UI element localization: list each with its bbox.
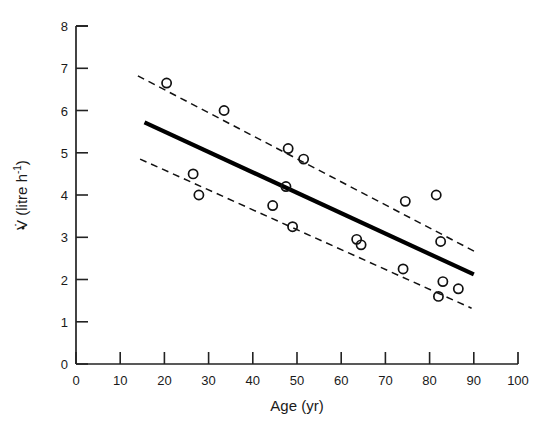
upper-confidence-limit-line (138, 76, 478, 253)
data-point (189, 169, 198, 178)
x-axis-tick-labels: 0 10 20 30 40 50 60 70 80 90 100 (72, 373, 528, 388)
chart-svg: 0 1 2 3 4 5 6 7 8 0 10 20 (0, 0, 549, 423)
x-tick-label-10: 10 (113, 373, 127, 388)
scatter-plot-figure: 0 1 2 3 4 5 6 7 8 0 10 20 (0, 0, 549, 423)
y-axis-title-main: V̇ (litre h (13, 174, 30, 230)
data-point (432, 190, 441, 199)
x-tick-label-40: 40 (246, 373, 260, 388)
y-tick-label-4: 4 (61, 188, 68, 203)
y-axis-tick-labels: 0 1 2 3 4 5 6 7 8 (61, 19, 68, 372)
v-dot-overdot-icon (22, 227, 25, 230)
y-tick-label-2: 2 (61, 273, 68, 288)
x-axis-title: Age (yr) (270, 397, 323, 414)
data-point (288, 222, 297, 231)
data-point (268, 201, 277, 210)
x-axis-ticks (76, 352, 474, 364)
data-point (438, 277, 447, 286)
data-point (401, 197, 410, 206)
x-tick-label-20: 20 (157, 373, 171, 388)
data-point (454, 284, 463, 293)
data-point (162, 78, 171, 87)
data-point (398, 264, 407, 273)
y-axis-title: V̇ (litre h-1) (12, 160, 30, 230)
x-tick-label-50: 50 (290, 373, 304, 388)
regression-line (145, 122, 474, 274)
y-tick-label-8: 8 (61, 19, 68, 34)
x-tick-label-30: 30 (201, 373, 215, 388)
data-point (194, 190, 203, 199)
data-point (284, 144, 293, 153)
y-tick-label-1: 1 (61, 315, 68, 330)
x-tick-label-60: 60 (334, 373, 348, 388)
lower-confidence-limit-line (140, 159, 472, 308)
y-tick-label-0: 0 (61, 357, 68, 372)
y-tick-label-6: 6 (61, 104, 68, 119)
y-axis-title-close: ) (13, 160, 30, 165)
x-tick-label-100: 100 (507, 373, 529, 388)
data-point (436, 237, 445, 246)
x-tick-label-80: 80 (422, 373, 436, 388)
data-point (219, 106, 228, 115)
y-tick-label-7: 7 (61, 61, 68, 76)
y-tick-label-5: 5 (61, 146, 68, 161)
y-axis-title-group: V̇ (litre h-1) (12, 160, 30, 230)
x-tick-label-70: 70 (378, 373, 392, 388)
x-tick-label-90: 90 (467, 373, 481, 388)
y-axis-ticks (76, 26, 88, 364)
x-tick-label-0: 0 (72, 373, 79, 388)
y-tick-label-3: 3 (61, 230, 68, 245)
